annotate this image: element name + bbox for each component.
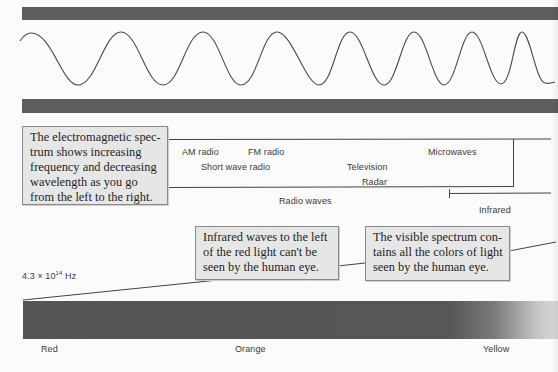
label-fm-radio: FM radio — [248, 147, 284, 157]
wave-curve — [20, 32, 555, 85]
callout-line: seen by the human eye. — [203, 260, 333, 275]
label-television: Television — [347, 162, 388, 172]
label-yellow: Yellow — [483, 344, 509, 354]
label-am-radio: AM radio — [182, 147, 219, 157]
visible-spectrum-band — [23, 301, 558, 339]
label-microwaves: Microwaves — [428, 147, 477, 157]
label-red: Red — [41, 344, 58, 354]
infrared-callout: Infrared waves to the left of the red li… — [195, 226, 339, 280]
callout-line: wavelength as you go — [30, 175, 162, 190]
label-radio-waves: Radio waves — [279, 196, 332, 206]
visible-spectrum-callout: The visible spectrum con- tains all the … — [365, 226, 510, 281]
callout-line: seen by the human eye. — [373, 260, 504, 275]
callout-line: tains all the colors of light — [373, 245, 504, 260]
label-infrared: Infrared — [479, 205, 511, 215]
label-orange: Orange — [235, 344, 266, 354]
callout-line: The visible spectrum con- — [373, 230, 504, 245]
callout-line: from the left to the right. — [30, 190, 162, 205]
frequency-label: 4.3 × 1014 Hz — [22, 270, 76, 281]
frequency-unit: Hz — [62, 271, 76, 281]
callout-line: The electromagnetic spec- — [30, 130, 162, 145]
callout-line: trum shows increasing — [30, 145, 162, 160]
callout-line: of the red light can't be — [203, 245, 333, 260]
callout-line: frequency and decreasing — [30, 160, 162, 175]
em-spectrum-callout: The electromagnetic spec- trum shows inc… — [22, 126, 168, 205]
callout-line: Infrared waves to the left — [203, 230, 333, 245]
label-short-wave-radio: Short wave radio — [201, 162, 270, 172]
frequency-mantissa: 4.3 × 10 — [22, 271, 56, 281]
label-radar: Radar — [362, 177, 387, 187]
page-edge-shadow — [551, 0, 558, 372]
